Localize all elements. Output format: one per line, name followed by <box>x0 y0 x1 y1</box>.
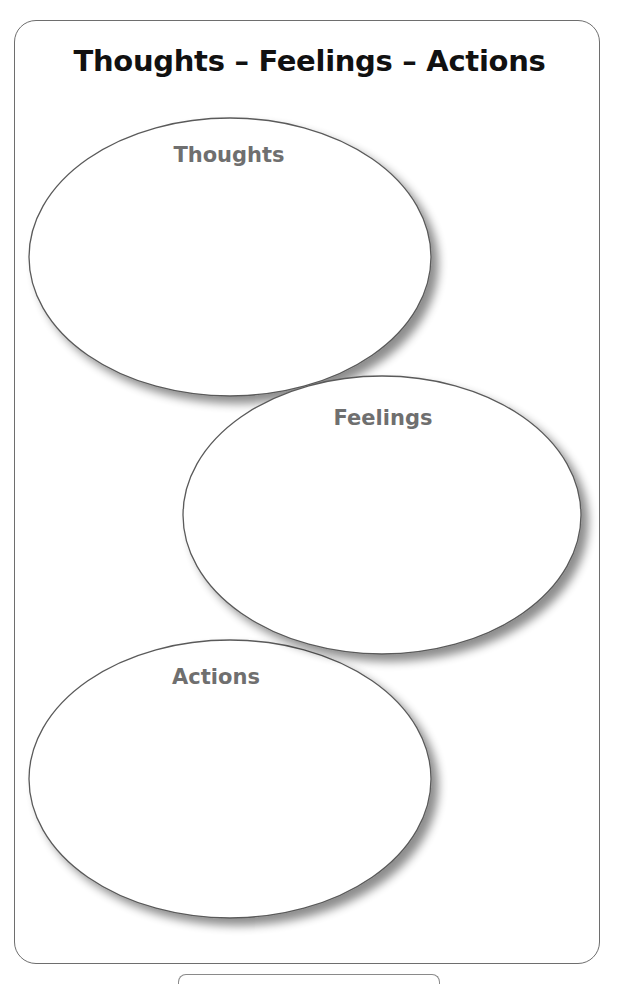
feelings-label: Feelings <box>334 406 433 430</box>
thoughts-label: Thoughts <box>173 143 284 167</box>
actions-label: Actions <box>172 665 260 689</box>
bottom-tab-edge <box>178 974 440 984</box>
